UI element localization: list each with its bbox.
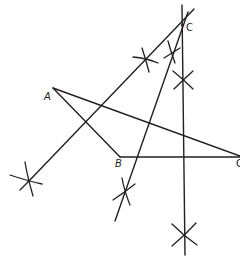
- construction-line-vertical: [182, 5, 185, 255]
- label-d: C: [236, 158, 240, 169]
- construction-line-middle: [115, 12, 188, 221]
- arc-mark-bottom-middle: [113, 178, 135, 205]
- label-a: A: [43, 91, 51, 102]
- construction-line-left: [28, 9, 194, 182]
- arc-mark-bottom-left: [10, 162, 42, 196]
- diagram-canvas: A B C C: [0, 0, 240, 260]
- geometry-diagram: A B C C: [0, 0, 240, 260]
- label-b: B: [115, 158, 122, 169]
- label-c: C: [186, 22, 193, 33]
- point-c: [181, 24, 183, 26]
- segment-a-b: [53, 88, 120, 157]
- segment-a-d: [53, 88, 240, 156]
